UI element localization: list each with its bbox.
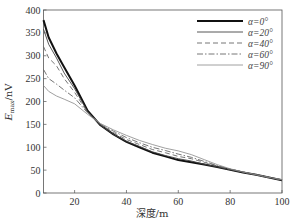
y-tick-label: 150 [26, 119, 41, 130]
legend-label: α=90° [248, 61, 273, 71]
series-line-alpha-2 [44, 47, 283, 180]
x-tick-label: 60 [173, 196, 183, 207]
svg-text:Emax/nV: Emax/nV [3, 83, 15, 122]
x-tick-label: 100 [275, 196, 290, 207]
legend: α=0°α=20°α=40°α=60°α=90° [197, 17, 273, 71]
legend-label: α=0° [248, 17, 268, 27]
y-tick-label: 350 [26, 27, 41, 38]
series-lines [44, 20, 283, 180]
legend-label: α=60° [248, 50, 273, 60]
y-tick-label: 200 [26, 96, 41, 107]
x-axis-title: 深度/m [136, 207, 169, 219]
plot-border [44, 10, 283, 193]
y-axis-title-unit: /nV [3, 83, 14, 101]
x-tick-label: 80 [225, 196, 235, 207]
y-tick-label: 100 [26, 142, 41, 153]
plot-area [44, 10, 283, 193]
x-tick-label: 20 [70, 196, 80, 207]
legend-label: α=40° [248, 39, 273, 49]
y-axis-title-sub: max [8, 100, 15, 113]
y-tick-label: 300 [26, 50, 41, 61]
y-axis-title: Emax/nV [3, 83, 15, 122]
y-tick-label: 250 [26, 73, 41, 84]
depth-emax-line-chart: 20406080100050100150200250300350400 α=0°… [0, 0, 293, 224]
x-tick-label: 40 [121, 196, 131, 207]
legend-label: α=20° [248, 28, 273, 38]
series-line-alpha-1 [44, 29, 283, 180]
y-tick-label: 50 [31, 165, 41, 176]
series-line-alpha-3 [44, 70, 283, 180]
y-tick-label: 0 [36, 188, 41, 199]
y-tick-label: 400 [26, 5, 41, 16]
